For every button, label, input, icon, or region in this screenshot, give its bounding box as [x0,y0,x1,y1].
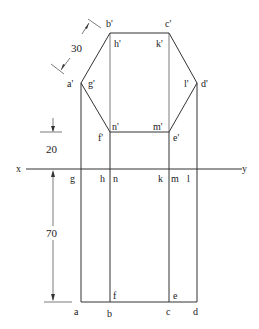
label-x: x [16,163,21,174]
dim-30-text: 30 [71,42,83,54]
label-a: a [74,306,79,317]
front-view [81,33,197,132]
dim-30-ext-top [88,19,101,28]
label-l-prime: l' [184,78,189,89]
dim-20-text: 20 [46,143,58,155]
label-g-prime: g' [88,78,95,89]
label-b: b [107,308,112,319]
projection-drawing: 30 20 70 x y b' c' h' k' a' g' l' d' n' … [0,0,259,329]
label-e-prime: e' [173,132,179,143]
label-e: e [173,290,178,301]
label-b-prime: b' [106,18,113,29]
label-c-prime: c' [165,18,171,29]
label-y: y [242,163,247,174]
arrow-icon [51,170,55,177]
label-f: f [113,290,117,301]
label-a-prime: a' [67,78,73,89]
label-h: h [100,173,105,184]
label-c: c [166,306,171,317]
dim-70-text: 70 [46,227,58,239]
arrow-icon [85,23,89,29]
label-f-prime: f' [98,132,103,143]
arrow-icon [51,294,55,301]
label-l: l [187,173,190,184]
projectors [81,83,197,302]
arrow-icon [51,126,55,132]
label-k: k [158,173,163,184]
arrow-icon [61,64,65,70]
label-k-prime: k' [156,38,163,49]
label-m: m [171,173,179,184]
hexagon-outline [81,33,197,132]
dim-20: 20 [40,118,62,155]
label-d-prime: d' [201,78,208,89]
label-n-prime: n' [112,121,119,132]
dim-70: 70 [44,170,62,301]
label-m-prime: m' [153,121,163,132]
label-d: d [193,306,198,317]
label-h-prime: h' [114,38,121,49]
label-n: n [113,173,118,184]
label-g: g [70,173,75,184]
dim-30: 30 [51,19,101,74]
